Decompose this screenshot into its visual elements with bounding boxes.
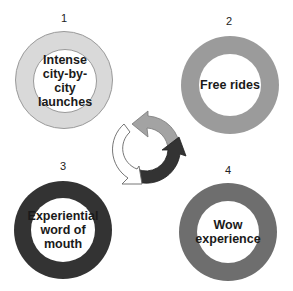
cycle-arrow-white <box>113 124 142 184</box>
cycle-arrows-icon <box>0 0 293 291</box>
